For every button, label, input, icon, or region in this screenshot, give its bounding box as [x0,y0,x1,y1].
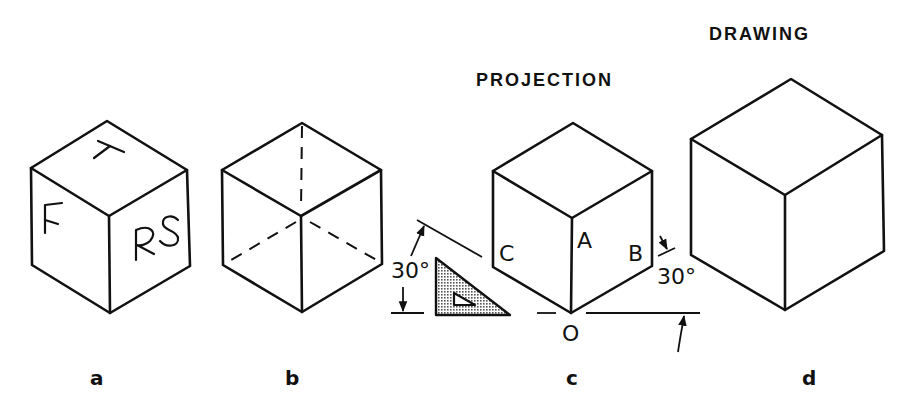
cube-c: A B C O [493,123,700,346]
face-label-f [45,203,62,233]
vertex-label-a: A [577,228,592,253]
angle-label-left: 30° [391,258,430,283]
isometric-diagram: 30° A B C O 30° [0,0,910,404]
face-label-t [94,141,124,158]
vertex-label-b: B [628,241,643,266]
face-label-rs [136,217,178,260]
cube-d [691,79,884,310]
triangle-tool [436,258,510,315]
hidden-edge-right [310,222,380,262]
angle-label-right: 30° [657,264,696,289]
cube-b [222,123,382,312]
hidden-edge-left [226,222,296,263]
cube-a [31,121,190,313]
vertex-label-o: O [562,321,579,346]
vertex-label-c: C [499,241,514,266]
hidden-edge-vertical [301,126,302,210]
